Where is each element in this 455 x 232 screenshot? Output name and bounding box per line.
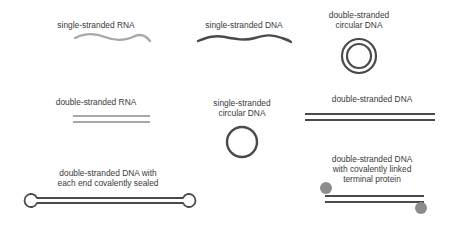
ss-circular-dna [227, 127, 257, 157]
ds-dna-sealed-loop [25, 194, 196, 207]
ss-dna-strand [198, 35, 291, 42]
ss-rna-strand [75, 34, 150, 41]
terminal-protein-right [415, 202, 427, 214]
terminal-protein-left [320, 182, 332, 194]
diagram-drawing [0, 0, 455, 232]
ds-circular-dna-inner [347, 44, 371, 68]
